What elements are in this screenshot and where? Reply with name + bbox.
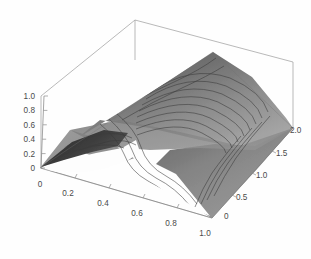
y-tick-label-2: 1.0: [256, 171, 268, 180]
surface-body: [40, 52, 293, 218]
y-tick-label-1: 0.5: [236, 193, 248, 202]
z-tick-label-2: 0.4: [24, 135, 36, 144]
axis-z: 0 0.2 0.4 0.6 0.8 1.0: [24, 92, 48, 173]
x-tick-label-2: 0.4: [97, 199, 109, 208]
x-tick-label-0: 0: [38, 180, 43, 189]
y-tick-label-4: 2.0: [290, 126, 302, 135]
z-tick-label-4: 0.8: [24, 106, 36, 115]
x-tick-label-4: 0.8: [165, 219, 177, 228]
z-tick-label-0: 0: [30, 164, 35, 173]
z-tick-label-5: 1.0: [24, 92, 36, 101]
z-tick-label-1: 0.2: [24, 150, 36, 159]
y-tick-label-3: 1.5: [276, 149, 288, 158]
y-tick-label-0: 0: [224, 212, 229, 221]
x-tick-label-1: 0.2: [62, 189, 74, 198]
x-tick-label-5: 1.0: [199, 229, 211, 238]
surface-plot-3d: 0 0.2 0.4 0.6 0.8 1.0 0 0.2 0.4 0.6 0.8 …: [0, 0, 311, 259]
z-tick-label-3: 0.6: [24, 121, 36, 130]
plot-canvas: 0 0.2 0.4 0.6 0.8 1.0 0 0.2 0.4 0.6 0.8 …: [0, 0, 311, 259]
x-tick-label-3: 0.6: [131, 209, 143, 218]
